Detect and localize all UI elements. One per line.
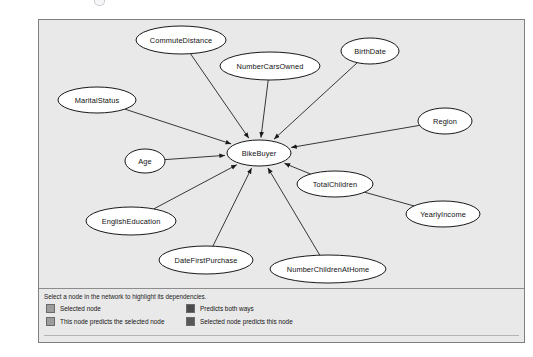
legend-swatch bbox=[46, 317, 55, 326]
edge-numbercarsowned-to-bikebuyer bbox=[261, 80, 268, 138]
node-englisheducation[interactable] bbox=[86, 207, 176, 235]
edge-totalchildren-to-bikebuyer bbox=[285, 163, 311, 174]
node-commutedistance[interactable] bbox=[136, 26, 226, 54]
legend-item: Predicts both ways bbox=[186, 304, 254, 313]
node-maritalstatus[interactable] bbox=[58, 87, 136, 113]
network-canvas[interactable] bbox=[39, 20, 524, 290]
node-age[interactable] bbox=[125, 149, 165, 173]
legend-label: This node predicts the selected node bbox=[60, 318, 164, 325]
legend-divider bbox=[44, 335, 519, 336]
legend-label: Selected node bbox=[60, 305, 101, 312]
legend-swatch bbox=[186, 304, 195, 313]
node-birthdate[interactable] bbox=[341, 38, 399, 64]
legend-item: This node predicts the selected node bbox=[46, 317, 164, 326]
screenshot-root: CommuteDistanceNumberCarsOwnedBirthDateM… bbox=[0, 0, 533, 357]
legend-label: Selected node predicts this node bbox=[200, 318, 293, 325]
edge-englisheducation-to-bikebuyer bbox=[154, 165, 237, 209]
dependency-network-graph[interactable]: CommuteDistanceNumberCarsOwnedBirthDateM… bbox=[39, 20, 524, 290]
node-numberchildrenathome[interactable] bbox=[270, 255, 386, 283]
node-bikebuyer[interactable] bbox=[227, 140, 291, 166]
legend-hint-text: Select a node in the network to highligh… bbox=[44, 293, 206, 300]
edge-age-to-bikebuyer bbox=[165, 155, 225, 159]
legend-item: Selected node bbox=[46, 304, 101, 313]
node-totalchildren[interactable] bbox=[297, 171, 373, 197]
node-datefirstpurchase[interactable] bbox=[159, 246, 253, 274]
edge-region-to-bikebuyer bbox=[291, 125, 419, 147]
edge-maritalstatus-to-bikebuyer bbox=[125, 109, 231, 144]
node-yearlyincome[interactable] bbox=[406, 201, 480, 227]
nodes-layer bbox=[58, 26, 480, 283]
node-region[interactable] bbox=[418, 108, 472, 134]
legend-panel: Select a node in the network to highligh… bbox=[39, 288, 524, 342]
clipped-toolbar-artifact bbox=[94, 0, 105, 6]
legend-label: Predicts both ways bbox=[200, 305, 254, 312]
dependency-network-viewer: CommuteDistanceNumberCarsOwnedBirthDateM… bbox=[38, 19, 525, 343]
legend-item: Selected node predicts this node bbox=[186, 317, 293, 326]
edge-datefirstpurchase-to-bikebuyer bbox=[213, 168, 252, 246]
legend-swatch bbox=[186, 317, 195, 326]
node-numbercarsowned[interactable] bbox=[220, 52, 320, 80]
legend-swatch bbox=[46, 304, 55, 313]
edge-yearlyincome-to-totalchildren bbox=[365, 192, 414, 206]
